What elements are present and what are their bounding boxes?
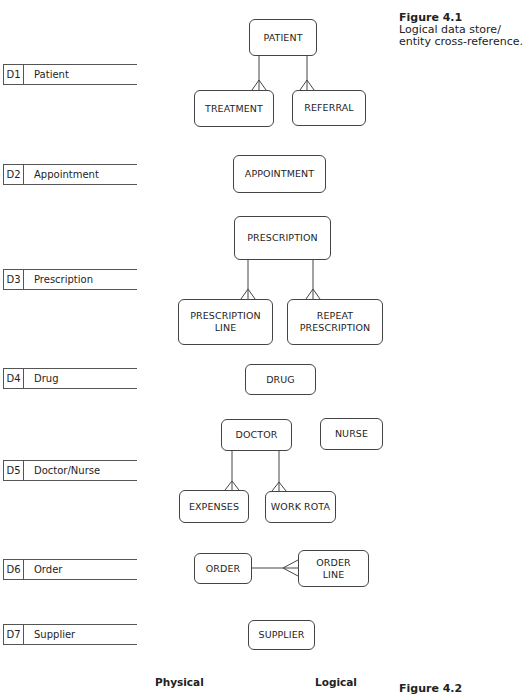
data-store-name: Prescription [34,270,93,289]
entity-doctor: DOCTOR [221,419,292,451]
data-store-name: Patient [34,65,69,84]
data-store-d4: D4 Drug [3,368,137,389]
entity-expenses: EXPENSES [179,490,249,523]
data-store-id: D2 [4,165,24,184]
entity-appointment: APPOINTMENT [233,155,326,193]
entity-prescription: PRESCRIPTION [234,216,331,260]
data-store-id: D1 [4,65,24,84]
entity-label-line2: LINE [215,322,237,334]
entity-label: TREATMENT [205,103,263,115]
entity-prescription-line: PRESCRIPTION LINE [178,299,273,345]
entity-nurse: NURSE [320,418,383,450]
figure-caption: Figure 4.1 Logical data store/ entity cr… [399,12,523,48]
data-store-name: Drug [34,369,59,388]
entity-referral: REFERRAL [292,90,366,126]
entity-drug: DRUG [245,364,316,395]
entity-supplier: SUPPLIER [248,620,315,650]
data-store-d5: D5 Doctor/Nurse [3,460,137,481]
entity-label: PATIENT [263,32,302,44]
entity-label: WORK ROTA [271,501,330,513]
entity-label-line2: LINE [323,569,345,581]
figure-4-2-title: Figure 4.2 [399,682,462,694]
physical-label: Physical [155,676,204,688]
entity-order-line: ORDER LINE [298,550,369,587]
data-store-d2: D2 Appointment [3,164,137,185]
entity-label: APPOINTMENT [245,168,314,180]
entity-label: PRESCRIPTION [247,232,318,244]
entity-patient: PATIENT [249,19,317,56]
entity-work-rota: WORK ROTA [265,491,336,523]
data-store-d1: D1 Patient [3,64,137,85]
data-store-d6: D6 Order [3,559,137,580]
data-store-d3: D3 Prescription [3,269,137,290]
entity-repeat-prescription: REPEAT PRESCRIPTION [287,299,383,345]
data-store-name: Order [34,560,62,579]
entity-label: NURSE [335,428,368,440]
entity-label-line2: PRESCRIPTION [300,322,371,334]
data-store-name: Doctor/Nurse [34,461,100,480]
entity-label: DOCTOR [236,429,278,441]
entity-label: REFERRAL [304,102,353,114]
data-store-name: Appointment [34,165,99,184]
data-store-id: D7 [4,625,24,644]
entity-treatment: TREATMENT [194,90,274,127]
data-store-id: D4 [4,369,24,388]
caption-line: entity cross-reference. [399,36,523,48]
entity-label: SUPPLIER [259,629,305,641]
entity-order: ORDER [194,553,252,584]
data-store-d7: D7 Supplier [3,624,137,645]
entity-label-line1: ORDER [316,557,351,569]
logical-label: Logical [315,676,357,688]
data-store-id: D5 [4,461,24,480]
entity-label: ORDER [206,563,241,575]
data-store-id: D3 [4,270,24,289]
data-store-name: Supplier [34,625,75,644]
entity-label-line1: PRESCRIPTION [190,310,261,322]
entity-label: DRUG [266,374,295,386]
entity-label: EXPENSES [189,501,239,513]
data-store-id: D6 [4,560,24,579]
entity-label-line1: REPEAT [317,310,354,322]
